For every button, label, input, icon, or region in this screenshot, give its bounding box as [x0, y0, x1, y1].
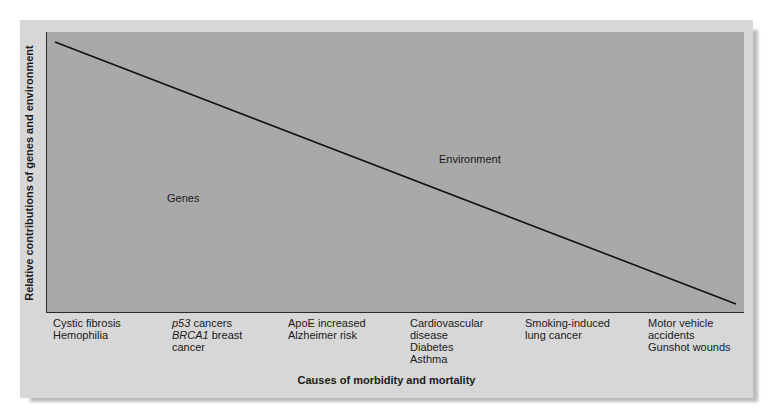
category-label-p53-brca1: p53 cancers BRCA1 breast cancer [172, 317, 242, 353]
category-line: p53 cancers [172, 317, 242, 329]
region-label-genes: Genes [167, 192, 199, 204]
category-label-cystic-fibrosis: Cystic fibrosis Hemophilia [53, 317, 121, 341]
category-line: Cystic fibrosis [53, 317, 121, 329]
category-line: Motor vehicle [648, 317, 731, 329]
category-label-cardiovascular: Cardiovascular disease Diabetes Asthma [410, 317, 483, 365]
figure-panel: Relative contributions of genes and envi… [20, 20, 753, 398]
divider-line-svg [47, 32, 744, 312]
category-line-rest: breast [209, 329, 243, 341]
category-line: Alzheimer risk [288, 329, 366, 341]
category-line: ApoE increased [288, 317, 366, 329]
gene-name-p53: p53 [172, 317, 190, 329]
category-line: Asthma [410, 353, 483, 365]
category-line: accidents [648, 329, 731, 341]
category-line: Cardiovascular [410, 317, 483, 329]
plot-area: Genes Environment [46, 32, 744, 313]
category-line: Gunshot wounds [648, 341, 731, 353]
region-label-environment: Environment [439, 153, 501, 165]
y-axis-title: Relative contributions of genes and envi… [23, 33, 35, 313]
category-line: cancer [172, 341, 242, 353]
category-line: Smoking-induced [525, 317, 610, 329]
category-line: BRCA1 breast [172, 329, 242, 341]
gene-name-brca1: BRCA1 [172, 329, 209, 341]
category-line-rest: cancers [190, 317, 232, 329]
category-line: disease [410, 329, 483, 341]
x-axis-title: Causes of morbidity and mortality [20, 374, 753, 386]
genes-environment-divider-line [55, 42, 736, 304]
category-line: Hemophilia [53, 329, 121, 341]
category-line: Diabetes [410, 341, 483, 353]
category-label-smoking: Smoking-induced lung cancer [525, 317, 610, 341]
category-line: lung cancer [525, 329, 610, 341]
category-label-accidents: Motor vehicle accidents Gunshot wounds [648, 317, 731, 353]
category-label-apoe: ApoE increased Alzheimer risk [288, 317, 366, 341]
